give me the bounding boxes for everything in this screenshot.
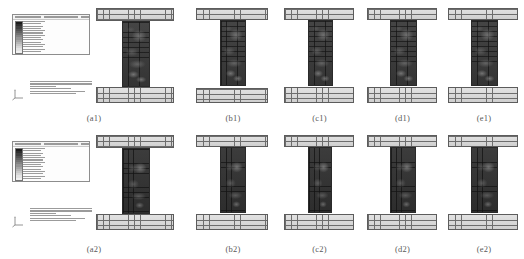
legend-value — [23, 153, 43, 154]
legend-value-list — [23, 21, 45, 52]
status-line — [30, 218, 85, 219]
legend-step-text — [81, 143, 90, 145]
legend-value — [23, 28, 41, 29]
viewport-status-block-a1 — [30, 81, 92, 94]
specimen-b1 — [196, 8, 270, 103]
legend-colorbar — [15, 148, 23, 181]
legend-value — [23, 148, 45, 149]
legend-value — [23, 46, 43, 47]
legend-value — [23, 157, 45, 158]
specimen-d2 — [367, 135, 439, 230]
contour-legend-a2 — [12, 141, 90, 182]
bottom-flange — [367, 214, 437, 230]
legend-value — [23, 162, 45, 163]
coordinate-triad-a1 — [12, 88, 24, 101]
status-line — [30, 220, 76, 221]
coordinate-triad-a2 — [12, 215, 24, 228]
legend-value — [23, 51, 41, 52]
specimen-e2 — [448, 135, 520, 230]
panel-caption-d1: (d1) — [361, 113, 444, 123]
web-contour — [122, 148, 150, 214]
legend-value — [23, 26, 43, 27]
legend-value — [23, 23, 41, 24]
status-line — [30, 93, 76, 94]
panel-caption-c1: (c1) — [278, 113, 361, 123]
top-flange — [96, 8, 174, 21]
web-contour — [471, 20, 498, 86]
status-gap — [30, 83, 92, 84]
panel-caption-d2: (d2) — [361, 244, 444, 254]
legend-value — [23, 49, 45, 50]
panel-e2[interactable]: (e2) — [444, 129, 524, 258]
web-contour — [220, 147, 246, 213]
legend-subtitle-text — [44, 143, 78, 145]
top-flange — [367, 135, 437, 147]
legend-value — [23, 178, 41, 179]
legend-value — [23, 164, 41, 165]
panel-c1[interactable]: (c1) — [278, 0, 361, 129]
top-flange — [284, 135, 354, 147]
panel-e1[interactable]: (e1) — [444, 0, 524, 129]
top-flange — [448, 8, 518, 20]
panel-caption-b1: (b1) — [188, 113, 278, 123]
status-line — [30, 215, 71, 216]
legend-colorbar — [15, 21, 23, 54]
specimen-b2 — [196, 135, 270, 230]
top-flange — [367, 8, 437, 20]
status-line — [30, 88, 71, 89]
top-flange — [196, 8, 268, 20]
bottom-flange — [96, 87, 174, 103]
specimen-a2 — [96, 135, 176, 230]
web-contour — [308, 20, 333, 86]
panel-b1[interactable]: (b1) — [188, 0, 278, 129]
status-line — [30, 86, 56, 87]
panel-a2[interactable]: (a2) — [0, 129, 188, 258]
panel-caption-a2: (a2) — [0, 244, 188, 254]
panel-d1[interactable]: (d1) — [361, 0, 444, 129]
panel-caption-b2: (b2) — [188, 244, 278, 254]
legend-value — [23, 150, 41, 151]
legend-value — [23, 37, 41, 38]
legend-value — [23, 35, 45, 36]
status-line — [30, 91, 85, 92]
bottom-flange — [367, 87, 437, 103]
web-contour — [390, 20, 417, 86]
top-flange — [196, 135, 268, 147]
panel-c2[interactable]: (c2) — [278, 129, 361, 258]
top-flange — [96, 135, 174, 148]
legend-value — [23, 173, 43, 174]
legend-value — [23, 39, 43, 40]
legend-value — [23, 166, 43, 167]
panel-caption-a1: (a1) — [0, 113, 188, 123]
legend-value — [23, 159, 43, 160]
web-contour — [390, 147, 416, 213]
bottom-flange — [448, 87, 518, 103]
legend-value — [23, 169, 41, 170]
legend-title-text — [15, 143, 41, 145]
legend-value — [23, 21, 45, 22]
legend-header — [13, 142, 89, 147]
legend-value — [23, 155, 41, 156]
legend-value — [23, 176, 45, 177]
top-flange — [284, 8, 354, 20]
specimen-a1 — [96, 8, 176, 103]
legend-subtitle-text — [44, 16, 78, 18]
specimen-c2 — [284, 135, 356, 230]
viewport-status-block-a2 — [30, 208, 92, 221]
panel-a1[interactable]: (a1) — [0, 0, 188, 129]
status-line — [30, 81, 92, 82]
panel-caption-e2: (e2) — [444, 244, 524, 254]
bottom-flange — [196, 214, 268, 230]
panel-d2[interactable]: (d2) — [361, 129, 444, 258]
panel-row-1: (a1) (b1) (c1) — [0, 0, 524, 129]
status-line — [30, 213, 56, 214]
bottom-flange — [448, 214, 518, 230]
top-flange — [448, 135, 518, 147]
panel-caption-e1: (e1) — [444, 113, 524, 123]
fea-contour-figure: (a1) (b1) (c1) — [0, 0, 524, 259]
status-gap — [30, 210, 92, 211]
bottom-flange — [196, 88, 268, 103]
specimen-c1 — [284, 8, 356, 103]
panel-b2[interactable]: (b2) — [188, 129, 278, 258]
legend-value — [23, 30, 45, 31]
